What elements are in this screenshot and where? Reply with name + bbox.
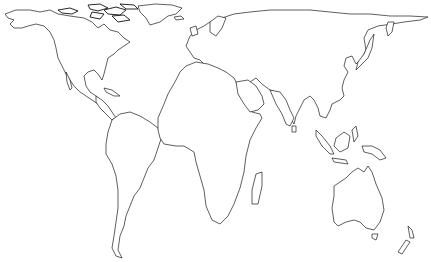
region-central-america <box>96 96 116 120</box>
region-cuba <box>104 88 120 96</box>
region-java <box>332 158 348 164</box>
region-south-america <box>106 112 162 258</box>
region-borneo <box>334 132 350 152</box>
region-madagascar <box>252 172 262 204</box>
region-new-zealand-south <box>398 240 410 254</box>
region-australia <box>332 166 384 230</box>
region-new-zealand <box>408 226 414 238</box>
world-map: World map outline <box>0 0 431 262</box>
region-philippines <box>352 126 358 142</box>
region-tasmania <box>372 234 378 240</box>
region-greenland <box>138 4 182 25</box>
region-kamchatka <box>386 22 394 36</box>
region-sri-lanka <box>292 126 296 132</box>
region-sumatra <box>316 130 334 154</box>
region-new-guinea <box>362 146 386 160</box>
region-iceland <box>174 16 184 20</box>
